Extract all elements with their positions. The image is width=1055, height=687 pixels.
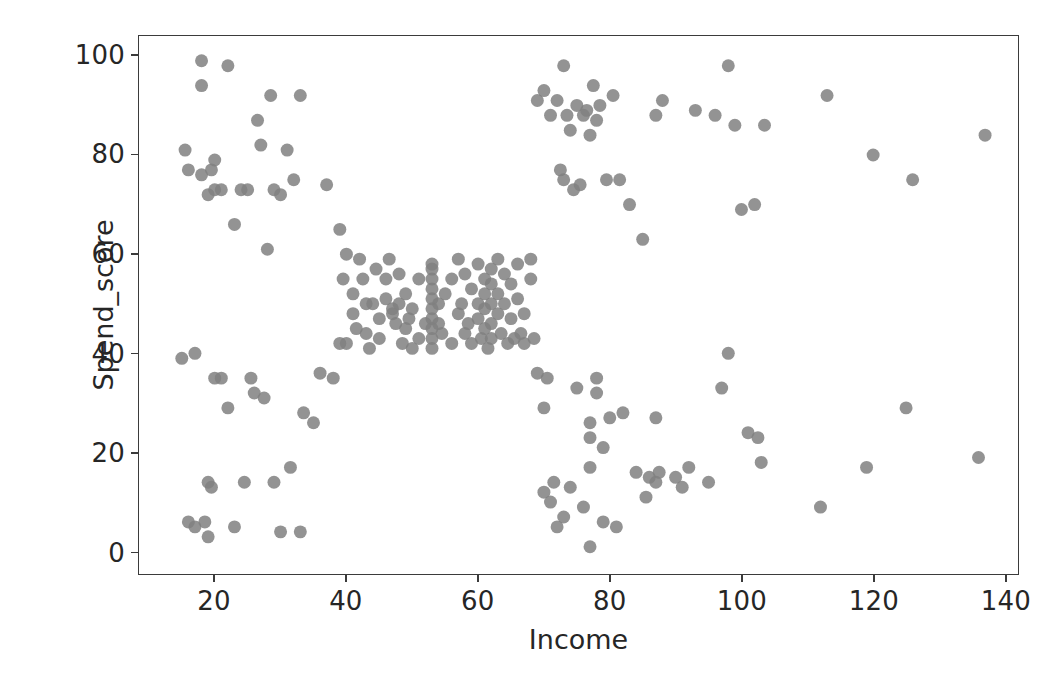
scatter-point: [867, 149, 880, 162]
scatter-point: [722, 59, 735, 72]
x-tick-mark: [741, 575, 743, 582]
scatter-point: [294, 525, 307, 538]
scatter-point: [314, 367, 327, 380]
scatter-point: [640, 491, 653, 504]
x-tick-mark: [873, 575, 875, 582]
scatter-point: [445, 337, 458, 350]
scatter-point: [297, 406, 310, 419]
scatter-point: [524, 272, 537, 285]
scatter-point: [649, 109, 662, 122]
scatter-point: [195, 79, 208, 92]
scatter-point: [544, 496, 557, 509]
scatter-point: [251, 114, 264, 127]
scatter-point: [584, 540, 597, 553]
scatter-point: [327, 372, 340, 385]
scatter-point: [584, 129, 597, 142]
scatter-point: [564, 481, 577, 494]
scatter-point: [445, 272, 458, 285]
scatter-point: [267, 476, 280, 489]
x-tick-mark: [477, 575, 479, 582]
x-tick-label: 140: [981, 586, 1031, 616]
y-tick-mark: [131, 54, 138, 56]
y-tick-mark: [131, 353, 138, 355]
scatter-point: [182, 163, 195, 176]
scatter-point: [505, 312, 518, 325]
scatter-point: [333, 223, 346, 236]
scatter-point: [814, 501, 827, 514]
scatter-point: [547, 476, 560, 489]
scatter-point: [630, 466, 643, 479]
scatter-point: [587, 79, 600, 92]
scatter-point: [653, 466, 666, 479]
y-tick-mark: [131, 154, 138, 156]
scatter-point: [284, 461, 297, 474]
scatter-point: [597, 441, 610, 454]
scatter-point: [524, 253, 537, 266]
scatter-point: [541, 372, 554, 385]
scatter-point: [221, 59, 234, 72]
scatter-point: [748, 198, 761, 211]
scatter-point: [360, 327, 373, 340]
scatter-point: [616, 406, 629, 419]
scatter-point: [379, 272, 392, 285]
scatter-point: [709, 109, 722, 122]
scatter-point: [600, 173, 613, 186]
scatter-point: [340, 337, 353, 350]
scatter-point: [274, 188, 287, 201]
scatter-point: [593, 99, 606, 112]
plot-area: [138, 35, 1019, 575]
scatter-point: [656, 94, 669, 107]
scatter-point: [574, 178, 587, 191]
scatter-point: [198, 515, 211, 528]
scatter-point: [347, 307, 360, 320]
scatter-point: [215, 372, 228, 385]
y-tick-mark: [131, 253, 138, 255]
scatter-point: [426, 258, 439, 271]
scatter-point: [590, 114, 603, 127]
scatter-point: [570, 382, 583, 395]
x-tick-mark: [609, 575, 611, 582]
scatter-point: [636, 233, 649, 246]
scatter-point: [458, 268, 471, 281]
scatter-point: [610, 520, 623, 533]
x-tick-label: 20: [197, 586, 230, 616]
y-axis-label-container: Spend_score: [0, 35, 60, 575]
scatter-point: [406, 302, 419, 315]
scatter-point: [294, 89, 307, 102]
scatter-point: [455, 297, 468, 310]
scatter-point: [900, 401, 913, 414]
scatter-point: [557, 173, 570, 186]
scatter-point: [560, 109, 573, 122]
scatter-point: [472, 258, 485, 271]
x-axis-label: Income: [138, 624, 1019, 655]
y-axis-label: Spend_score: [88, 219, 119, 390]
scatter-point: [623, 198, 636, 211]
scatter-point: [205, 481, 218, 494]
scatter-point: [254, 139, 267, 152]
scatter-point: [228, 520, 241, 533]
scatter-point: [238, 476, 251, 489]
scatter-point: [728, 119, 741, 132]
scatter-point: [412, 272, 425, 285]
y-tick-mark: [131, 552, 138, 554]
x-tick-mark: [213, 575, 215, 582]
x-tick-label: 80: [593, 586, 626, 616]
scatter-point: [244, 372, 257, 385]
scatter-point: [577, 501, 590, 514]
x-tick-label: 60: [461, 586, 494, 616]
scatter-points-layer: [139, 36, 1018, 574]
scatter-point: [906, 173, 919, 186]
scatter-point: [528, 332, 541, 345]
scatter-point: [264, 89, 277, 102]
scatter-point: [366, 297, 379, 310]
scatter-point: [188, 347, 201, 360]
scatter-point: [682, 461, 695, 474]
scatter-point: [491, 253, 504, 266]
scatter-point: [337, 272, 350, 285]
scatter-point: [435, 327, 448, 340]
scatter-point: [755, 456, 768, 469]
scatter-point: [564, 124, 577, 137]
scatter-plot-figure: Spend_score 020406080100 204060801001201…: [0, 0, 1055, 687]
scatter-point: [511, 258, 524, 271]
scatter-point: [353, 253, 366, 266]
